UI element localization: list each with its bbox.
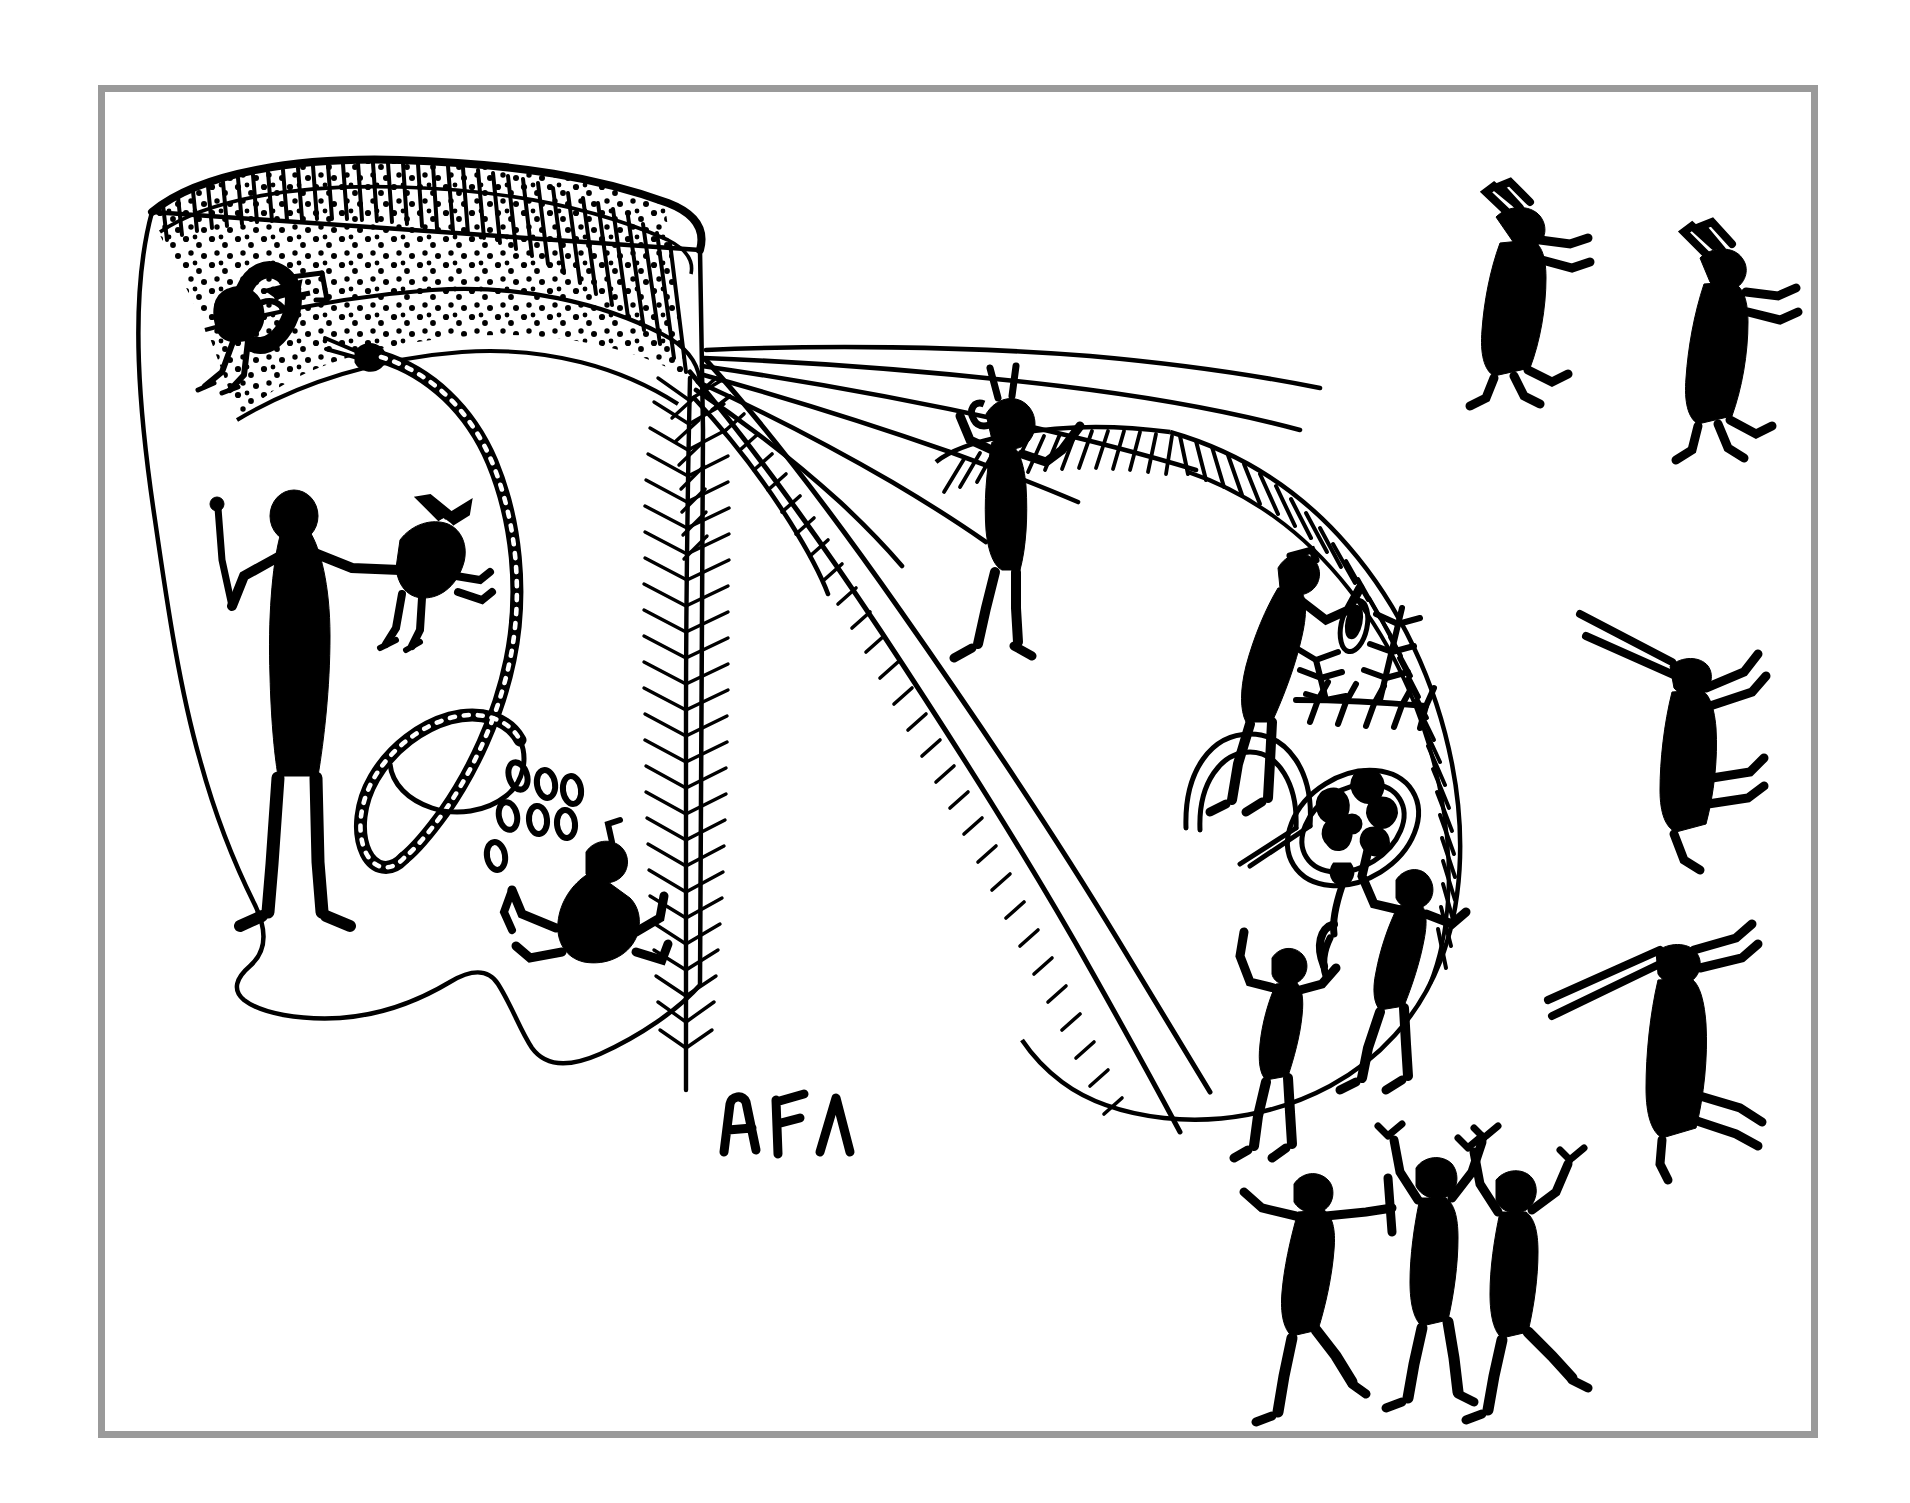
panel-dancer-icon-2 [1234,924,1336,1158]
inscription-glyphs [724,1094,850,1154]
horned-quadruped-icon-2 [1676,222,1798,460]
corn-plant-icon-3 [1296,682,1434,728]
hatched-ray-icon [690,360,1210,1132]
seed-oval-icon [1336,598,1372,654]
glyph-lambda [820,1098,850,1152]
long-horn-quadruped-icon-4 [1548,924,1762,1180]
figure-canvas: AFΛ Ink drawing of two mesas with rock-a… [0,0,1910,1503]
left-mesa [138,160,720,1064]
dancer-icon-3 [1458,1136,1588,1420]
bottom-dancers-group [1244,1124,1588,1422]
ink-drawing [0,0,1910,1503]
long-horn-quadruped-icon-3 [1580,614,1766,870]
dog-icon [380,496,492,650]
horned-quadruped-icon-1 [1470,182,1590,406]
seated-figure-icon [504,820,668,963]
arch-form-icon [1186,734,1311,866]
horned-dancer-icon [954,366,1080,658]
glyph-A [724,1097,756,1152]
glyph-F [776,1094,804,1154]
feathered-branch-icon [644,378,729,1090]
oval-dot-cluster-icon [485,760,583,871]
dancer-icon-1 [1244,1174,1392,1422]
outer-animals-group [1470,182,1798,1180]
